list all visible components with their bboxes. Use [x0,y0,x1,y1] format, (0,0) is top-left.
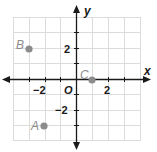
tick-label-x-2: 2 [104,84,110,96]
coordinate-plane: y x O −2 2 2 −2 A B C [0,0,157,152]
point-b-label: B [16,38,24,52]
point-a-marker [40,122,47,129]
tick-label-x-neg2: −2 [33,84,46,96]
point-c: C [80,68,96,84]
point-a: A [30,119,48,133]
point-b-marker [25,45,32,52]
y-axis [73,5,80,150]
point-a-label: A [30,119,39,133]
tick-label-y-2: 2 [64,43,70,55]
x-axis-label: x [143,64,152,78]
y-axis-label: y [83,4,92,18]
tick-label-y-neg2: −2 [55,104,68,116]
arrow-left-icon [2,76,10,83]
point-c-label: C [80,68,89,82]
point-b: B [16,38,33,53]
origin-label: O [64,84,73,96]
point-c-marker [88,76,95,83]
arrow-down-icon [73,142,80,150]
arrow-up-icon [73,5,80,13]
